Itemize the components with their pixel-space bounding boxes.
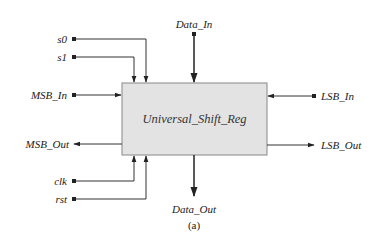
port-rst-label: rst	[55, 193, 68, 205]
port-s1: s1	[57, 51, 134, 82]
port-s0-label: s0	[57, 33, 67, 45]
port-s1-terminal-icon	[72, 55, 76, 59]
port-lsb-in: LSB_In	[268, 90, 355, 102]
port-clk-label: clk	[54, 175, 68, 187]
port-msb-out: MSB_Out	[25, 138, 122, 150]
figure-caption: (a)	[188, 219, 201, 232]
port-lsb-out: LSB_Out	[267, 139, 362, 151]
port-msb-in-terminal-icon	[72, 93, 76, 97]
port-s1-label: s1	[57, 51, 67, 63]
port-lsb-out-label: LSB_Out	[320, 139, 362, 151]
port-data-in: Data_In	[175, 18, 213, 82]
port-data-in-terminal-icon	[192, 32, 196, 36]
port-msb-in-label: MSB_In	[30, 89, 68, 101]
port-clk: clk	[54, 156, 134, 187]
port-data-out: Data_Out	[171, 155, 217, 215]
port-s0-terminal-icon	[72, 37, 76, 41]
port-msb-out-label: MSB_Out	[25, 138, 70, 150]
port-data-in-label: Data_In	[175, 18, 213, 30]
port-lsb-in-label: LSB_In	[320, 90, 355, 102]
port-rst-terminal-icon	[72, 197, 76, 201]
block-label: Universal_Shift_Reg	[142, 112, 246, 126]
universal-shift-register-diagram: Universal_Shift_Reg s0 s1 MSB_In MSB_Out…	[0, 0, 383, 244]
port-data-out-label: Data_Out	[171, 203, 217, 215]
port-clk-terminal-icon	[72, 179, 76, 183]
port-lsb-in-terminal-icon	[312, 94, 316, 98]
port-msb-in: MSB_In	[30, 89, 121, 101]
